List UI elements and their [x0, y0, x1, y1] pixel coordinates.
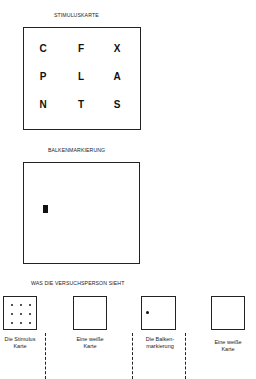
subject-view-heading: WAS DIE VERSUCHSPERSON SIEHT	[31, 280, 124, 286]
dot	[11, 322, 13, 324]
stimulus-letter: P	[37, 72, 49, 82]
small-stimulus-card	[3, 296, 37, 330]
dashed-separator	[132, 333, 133, 379]
dot	[29, 304, 31, 306]
small-blank-card-1	[73, 296, 107, 330]
dot	[11, 313, 13, 315]
stimulus-letter: S	[111, 100, 123, 110]
bar-marker	[43, 205, 48, 213]
stimulus-letter: F	[75, 44, 87, 54]
stimulus-heading: STIMULUSKARTE	[54, 12, 99, 18]
dot	[20, 322, 22, 324]
stimulus-letter: X	[111, 44, 123, 54]
dot	[20, 313, 22, 315]
dashed-separator	[45, 333, 46, 379]
dot	[20, 304, 22, 306]
caption-bar-card: Die Balken- markierung	[138, 336, 182, 349]
dashed-separator	[185, 333, 186, 379]
dot	[11, 304, 13, 306]
bar-marker-heading: BALKENMARKIERUNG	[48, 147, 105, 153]
stimulus-letter: N	[37, 100, 49, 110]
bar-marker-card	[23, 162, 140, 264]
caption-blank-card-2: Eine weiße Karte	[206, 339, 250, 352]
stimulus-card: C F X P L A N T S	[23, 27, 141, 130]
small-blank-card-2	[211, 296, 245, 330]
caption-stimulus-card: Die Stimulus Karte	[0, 336, 42, 349]
stimulus-letter: C	[37, 44, 49, 54]
dot	[29, 322, 31, 324]
stimulus-letter: L	[75, 72, 87, 82]
dot	[29, 313, 31, 315]
caption-blank-card-1: Eine weiße Karte	[68, 336, 112, 349]
stimulus-letter: A	[111, 72, 123, 82]
bar-dot	[146, 311, 149, 314]
stimulus-letter: T	[75, 100, 87, 110]
small-bar-card	[141, 296, 176, 330]
